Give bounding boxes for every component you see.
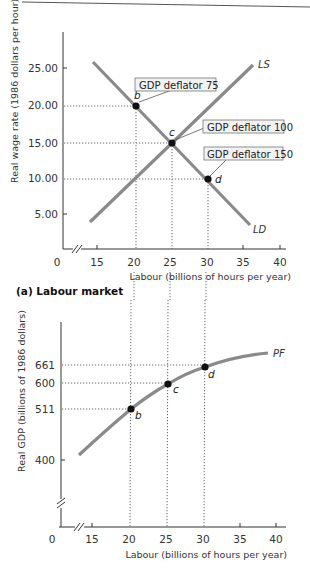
figure: Real wage rate (1986 dollars per hour) 2… bbox=[0, 0, 310, 572]
top-point-d bbox=[204, 175, 211, 182]
top-x-tick-30: 30 bbox=[200, 256, 213, 268]
top-x-axis-break-icon bbox=[72, 244, 82, 254]
bottom-point-b-label: b bbox=[135, 409, 142, 421]
callout-gdp-deflator-150: GDP deflator 150 bbox=[204, 147, 293, 160]
bottom-point-c bbox=[164, 380, 171, 387]
bottom-y-axis-title: Real GDP (billions of 1986 dollars) bbox=[16, 310, 27, 472]
panel-title-labour-market: (a) Labour market bbox=[16, 285, 123, 297]
top-x-tick-35: 35 bbox=[236, 256, 249, 268]
callout-gdp-deflator-75: GDP deflator 75 bbox=[135, 78, 219, 91]
bottom-x-tick-35: 35 bbox=[233, 533, 246, 545]
top-point-d-label: d bbox=[215, 173, 222, 185]
top-y-tick-15: 15.00 bbox=[28, 137, 58, 149]
production-function-chart: Real GDP (billions of 1986 dollars) 661 … bbox=[16, 300, 287, 560]
top-x-tick-15: 15 bbox=[90, 256, 103, 268]
top-x-tick-40: 40 bbox=[273, 256, 286, 268]
bottom-y-tick-511: 511 bbox=[35, 403, 55, 415]
bottom-x-tick-0: 0 bbox=[49, 533, 56, 545]
bottom-x-tick-20: 20 bbox=[122, 533, 135, 545]
top-rule bbox=[22, 2, 310, 7]
production-function-curve bbox=[79, 353, 268, 455]
top-x-tick-25: 25 bbox=[163, 256, 176, 268]
bottom-x-tick-25: 25 bbox=[159, 533, 172, 545]
top-point-c-label: c bbox=[169, 126, 175, 138]
ld-label: LD bbox=[253, 224, 267, 235]
top-y-tick-10: 10.00 bbox=[28, 172, 58, 184]
bottom-x-axis-title: Labour (billions of hours per year) bbox=[125, 549, 287, 560]
bottom-point-b bbox=[127, 405, 134, 412]
callout-gdp-deflator-100: GDP deflator 100 bbox=[203, 120, 293, 133]
bottom-guides bbox=[62, 300, 205, 527]
bottom-y-tick-600: 600 bbox=[35, 377, 55, 389]
top-y-tick-25: 25.00 bbox=[28, 62, 58, 74]
bottom-x-tick-40: 40 bbox=[269, 533, 282, 545]
labour-market-chart: Real wage rate (1986 dollars per hour) 2… bbox=[9, 0, 293, 300]
bottom-y-axis-break-icon bbox=[56, 498, 66, 508]
top-y-tick-20: 20.00 bbox=[28, 99, 58, 111]
bottom-y-tick-400: 400 bbox=[35, 454, 55, 466]
bottom-x-tick-15: 15 bbox=[85, 533, 98, 545]
bottom-x-tick-30: 30 bbox=[196, 533, 209, 545]
top-x-tick-20: 20 bbox=[127, 256, 140, 268]
top-x-axis-title: Labour (billions of hours per year) bbox=[129, 271, 291, 282]
bottom-point-d-label: d bbox=[208, 368, 215, 380]
top-y-tick-5: 5.00 bbox=[35, 208, 58, 220]
top-point-b bbox=[132, 102, 139, 109]
svg-text:GDP deflator 75: GDP deflator 75 bbox=[139, 80, 219, 91]
top-x-tick-0: 0 bbox=[54, 256, 61, 268]
ls-label: LS bbox=[258, 59, 271, 70]
bottom-point-c-label: c bbox=[173, 383, 179, 395]
bottom-y-tick-661: 661 bbox=[35, 359, 55, 371]
bottom-x-axis-break-icon bbox=[74, 522, 84, 532]
pf-label: PF bbox=[273, 348, 285, 359]
top-y-axis-title: Real wage rate (1986 dollars per hour) bbox=[9, 0, 20, 183]
top-point-c bbox=[168, 139, 175, 146]
svg-text:GDP deflator 100: GDP deflator 100 bbox=[207, 122, 293, 133]
svg-text:GDP deflator 150: GDP deflator 150 bbox=[207, 149, 293, 160]
